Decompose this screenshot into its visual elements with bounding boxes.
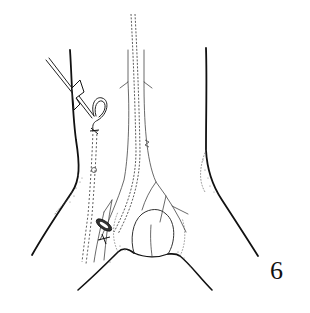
suture-mark-side xyxy=(92,140,150,173)
dashed-catheter-left xyxy=(82,130,97,264)
stipple-shading xyxy=(70,159,215,266)
anatomical-illustration xyxy=(0,0,310,313)
torso-outline-left xyxy=(32,50,79,255)
figure-number: 6 xyxy=(270,258,283,284)
torso-outline-right xyxy=(201,48,258,256)
suture-mark-top xyxy=(90,128,99,134)
dashed-catheter-central xyxy=(114,14,140,234)
suture-mark-bottom xyxy=(98,234,110,244)
